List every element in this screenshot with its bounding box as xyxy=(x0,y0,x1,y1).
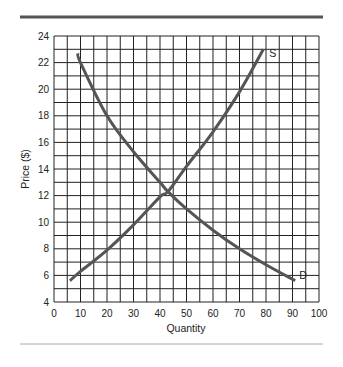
x-axis-ticks: 0102030405060708090100 xyxy=(51,308,328,319)
y-tick-label: 18 xyxy=(38,110,50,121)
y-tick-label: 22 xyxy=(38,57,50,68)
x-tick-label: 80 xyxy=(260,308,272,319)
y-tick-label: 14 xyxy=(38,164,50,175)
curves: SD xyxy=(70,47,307,280)
y-tick-label: 12 xyxy=(38,190,50,201)
y-tick-label: 8 xyxy=(43,243,49,254)
curve-label-s: S xyxy=(269,47,276,59)
y-tick-label: 24 xyxy=(38,31,50,42)
x-tick-label: 0 xyxy=(51,308,57,319)
y-tick-label: 10 xyxy=(38,217,50,228)
y-tick-label: 4 xyxy=(43,297,49,308)
x-tick-label: 70 xyxy=(234,308,246,319)
y-axis-ticks: 4681012141618202224 xyxy=(38,31,50,308)
x-tick-label: 90 xyxy=(287,308,299,319)
y-axis-label: Price ($) xyxy=(19,149,31,189)
y-tick-label: 20 xyxy=(38,84,50,95)
x-tick-label: 40 xyxy=(154,308,166,319)
x-tick-label: 60 xyxy=(207,308,219,319)
y-tick-label: 6 xyxy=(43,270,49,281)
x-tick-label: 30 xyxy=(128,308,140,319)
supply-demand-chart: 4681012141618202224 01020304050607080901… xyxy=(0,0,343,367)
x-tick-label: 100 xyxy=(311,308,328,319)
x-tick-label: 50 xyxy=(181,308,193,319)
y-tick-label: 16 xyxy=(38,137,50,148)
curve-label-d: D xyxy=(299,269,307,281)
x-tick-label: 20 xyxy=(101,308,113,319)
x-axis-label: Quantity xyxy=(166,322,206,334)
x-tick-label: 10 xyxy=(75,308,87,319)
